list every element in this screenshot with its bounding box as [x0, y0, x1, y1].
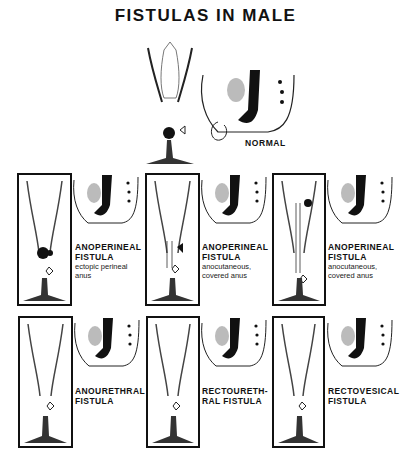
- label-main: RECTOVESICAL FISTULA: [328, 387, 399, 406]
- panel-label-anoperineal-ectopic: ANOPERINEAL FISTULA ectopic perineal anu…: [75, 243, 141, 280]
- perineum-view-icon: [17, 173, 72, 306]
- label-sub: ectopic perineal anus: [75, 262, 141, 280]
- perineum-view-icon: [272, 316, 325, 448]
- sagittal-pelvis-icon: [326, 318, 396, 378]
- perineum-view-icon: [145, 173, 200, 306]
- sagittal-pelvis-icon: [200, 318, 270, 378]
- panel-label-rectovesical: RECTOVESICAL FISTULA: [328, 387, 399, 406]
- panel-label-anoperineal-covered-2: ANOPERINEAL FISTULA anocutaneous, covere…: [328, 243, 394, 280]
- label-sub: anocutaneous, covered anus: [328, 262, 394, 280]
- page-title: FISTULAS IN MALE: [0, 6, 411, 26]
- label-sub: anocutaneous, covered anus: [202, 262, 268, 280]
- panel-label-anoperineal-covered-1: ANOPERINEAL FISTULA anocutaneous, covere…: [202, 243, 268, 280]
- panel-label-rectourethral: RECTOURETH- RAL FISTULA: [202, 387, 268, 406]
- sagittal-pelvis-icon: [72, 175, 142, 235]
- sagittal-pelvis-icon: [326, 175, 396, 235]
- sagittal-pelvis-icon: [200, 175, 270, 235]
- label-main: RECTOURETH- RAL FISTULA: [202, 387, 268, 406]
- perineum-view-icon: [146, 316, 200, 448]
- normal-sagittal-icon: [198, 70, 298, 145]
- label-main: ANOPERINEAL FISTULA: [202, 243, 268, 262]
- normal-perineum-icon: [140, 40, 200, 168]
- normal-label: NORMAL: [245, 138, 286, 148]
- label-main: ANOURETHRAL FISTULA: [75, 387, 145, 406]
- label-main: ANOPERINEAL FISTULA: [75, 243, 141, 262]
- perineum-view-icon: [272, 173, 326, 306]
- panel-label-anourethral: ANOURETHRAL FISTULA: [75, 387, 145, 406]
- perineum-view-icon: [18, 316, 73, 448]
- label-main: ANOPERINEAL FISTULA: [328, 243, 394, 262]
- sagittal-pelvis-icon: [73, 318, 143, 378]
